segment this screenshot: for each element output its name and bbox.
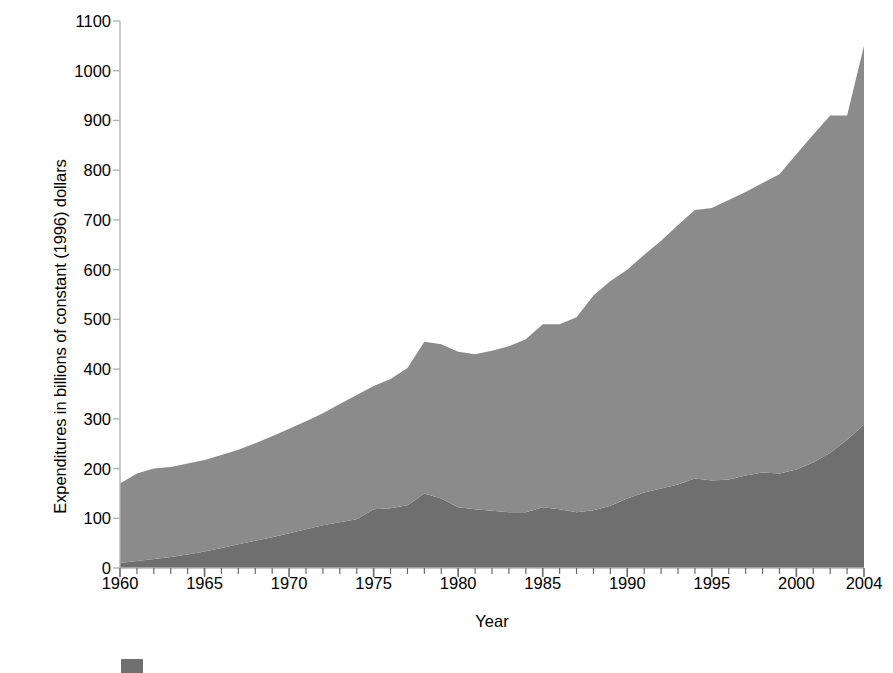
x-axis-label: Year — [120, 612, 864, 631]
legend-swatch-lower-series — [121, 659, 143, 673]
x-tick-label-2000: 2000 — [778, 574, 815, 593]
chart-container: Expenditures in billions of constant (19… — [0, 0, 893, 673]
y-tick-label-1000: 1000 — [57, 61, 111, 80]
y-tick-label-800: 800 — [57, 161, 111, 180]
x-tick-label-1975: 1975 — [355, 574, 392, 593]
x-tick-label-2004: 2004 — [846, 574, 883, 593]
x-tick-label-1990: 1990 — [609, 574, 646, 593]
y-tick-label-400: 400 — [57, 360, 111, 379]
x-tick-label-1960: 1960 — [102, 574, 139, 593]
y-tick-label-500: 500 — [57, 310, 111, 329]
y-tick-label-300: 300 — [57, 409, 111, 428]
x-tick-label-1995: 1995 — [693, 574, 730, 593]
stacked-area-group — [120, 46, 864, 568]
y-tick-label-900: 900 — [57, 111, 111, 130]
y-tick-label-100: 100 — [57, 509, 111, 528]
y-tick-label-200: 200 — [57, 459, 111, 478]
x-tick-label-1965: 1965 — [186, 574, 223, 593]
y-tick-label-1100: 1100 — [57, 12, 111, 31]
x-tick-label-1970: 1970 — [271, 574, 308, 593]
chart-plot-area — [0, 0, 893, 673]
legend — [121, 659, 152, 673]
x-tick-label-1980: 1980 — [440, 574, 477, 593]
x-tick-label-1985: 1985 — [524, 574, 561, 593]
y-tick-label-600: 600 — [57, 260, 111, 279]
y-tick-label-700: 700 — [57, 210, 111, 229]
